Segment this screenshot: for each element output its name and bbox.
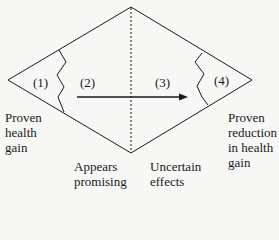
caption-appears-promising: Appears promising — [74, 159, 127, 189]
arrow-head — [179, 94, 188, 101]
caption-proven-reduction: Proven reduction in health gain — [228, 110, 277, 170]
caption-proven-health-gain: Proven health gain — [5, 110, 42, 155]
left-zigzag-boundary — [57, 50, 66, 112]
region-2-label: (2) — [80, 75, 95, 90]
region-1-label: (1) — [33, 75, 48, 90]
region-4-label: (4) — [214, 73, 229, 88]
right-zigzag-boundary — [195, 53, 208, 105]
region-3-label: (3) — [155, 75, 170, 90]
caption-uncertain-effects: Uncertain effects — [150, 159, 201, 189]
